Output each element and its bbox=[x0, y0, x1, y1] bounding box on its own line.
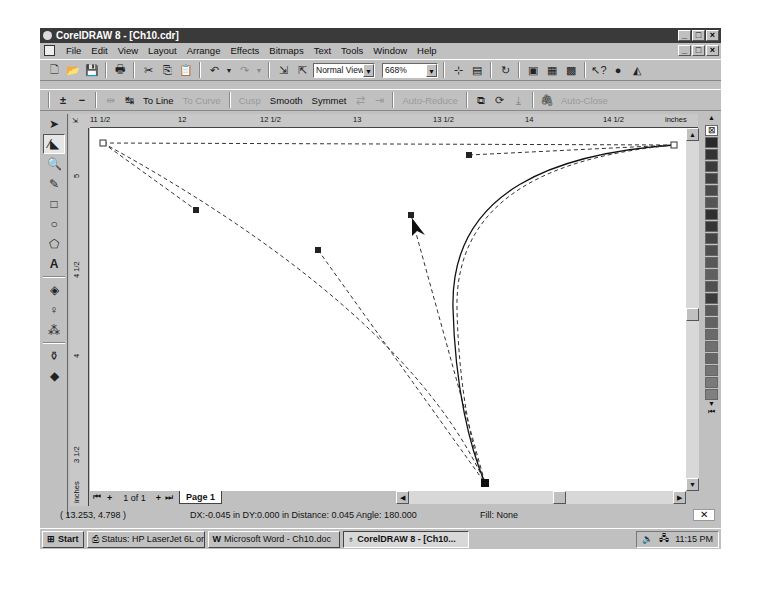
close-button[interactable]: × bbox=[706, 30, 719, 41]
color-swatch[interactable] bbox=[705, 305, 718, 316]
color-swatch[interactable] bbox=[705, 341, 718, 352]
menu-window[interactable]: Window bbox=[368, 43, 412, 58]
add-node-icon[interactable]: ± bbox=[55, 92, 71, 108]
freehand-tool-icon[interactable]: ✎ bbox=[43, 174, 65, 194]
color-swatch[interactable] bbox=[705, 377, 718, 388]
page-tab-page-1[interactable]: Page 1 bbox=[179, 491, 222, 504]
snap-to-grid-icon[interactable]: ⊹ bbox=[450, 62, 466, 78]
menu-view[interactable]: View bbox=[113, 43, 143, 58]
scroll-up-button[interactable]: ▲ bbox=[686, 128, 699, 141]
color-swatch[interactable] bbox=[705, 209, 718, 220]
rotate-nodes-icon[interactable]: ⟳ bbox=[492, 92, 508, 108]
start-node[interactable] bbox=[100, 140, 106, 146]
color-swatch[interactable] bbox=[705, 197, 718, 208]
doc-restore-button[interactable]: □ bbox=[692, 45, 705, 56]
control-handle[interactable] bbox=[315, 247, 321, 253]
interactive-blend-tool-icon[interactable]: ⁂ bbox=[43, 320, 65, 340]
minimize-button[interactable]: _ bbox=[678, 30, 691, 41]
menu-effects[interactable]: Effects bbox=[225, 43, 264, 58]
control-handle[interactable] bbox=[193, 207, 199, 213]
undo-dropdown-icon[interactable]: ▼ bbox=[225, 62, 233, 78]
zoom-level-select[interactable]: 668% ▼ bbox=[382, 63, 438, 78]
symmetrical-button[interactable]: Symmet bbox=[309, 95, 350, 106]
new-icon[interactable]: 🗋 bbox=[46, 62, 62, 78]
color-swatch[interactable] bbox=[705, 269, 718, 280]
color-swatch[interactable] bbox=[705, 293, 718, 304]
zoom-tool-icon[interactable]: 🔍 bbox=[43, 154, 65, 174]
redo-icon[interactable]: ↷ bbox=[236, 62, 252, 78]
doc-close-button[interactable]: × bbox=[706, 45, 719, 56]
undo-icon[interactable]: ↶ bbox=[206, 62, 222, 78]
control-handle[interactable] bbox=[466, 152, 472, 158]
auto-reduce-button[interactable]: Auto-Reduce bbox=[399, 95, 460, 106]
volume-icon[interactable]: 🔈 bbox=[642, 534, 653, 544]
pick-tool-icon[interactable]: ➤ bbox=[43, 114, 65, 134]
last-page-icon[interactable]: ⏭ bbox=[163, 492, 175, 503]
corel-tutor-icon[interactable]: ▦ bbox=[544, 62, 560, 78]
scrapbook-icon[interactable]: ▩ bbox=[563, 62, 579, 78]
elastic-mode-icon[interactable]: 🖇 bbox=[539, 92, 555, 108]
taskbar-coreldraw[interactable]: ♁ CorelDRAW 8 - [Ch10... bbox=[343, 531, 469, 548]
menu-edit[interactable]: Edit bbox=[86, 43, 112, 58]
taskbar-microsoft-word[interactable]: W Microsoft Word - Ch10.doc bbox=[208, 531, 340, 548]
reverse-curve-icon[interactable]: ⇄ bbox=[352, 92, 368, 108]
color-swatch[interactable] bbox=[705, 317, 718, 328]
cusp-button[interactable]: Cusp bbox=[236, 95, 264, 106]
snap-to-objects-icon[interactable]: ▤ bbox=[469, 62, 485, 78]
delete-node-icon[interactable]: − bbox=[74, 92, 90, 108]
shape-tool-icon[interactable]: ⁄◣ bbox=[43, 134, 65, 154]
menu-layout[interactable]: Layout bbox=[143, 43, 182, 58]
restore-button[interactable]: □ bbox=[692, 30, 705, 41]
auto-close-button[interactable]: Auto-Close bbox=[558, 95, 611, 106]
color-swatch[interactable] bbox=[705, 137, 718, 148]
scroll-right-button[interactable]: ▶ bbox=[673, 491, 686, 504]
eyedropper-tool-icon[interactable]: ⚱ bbox=[43, 346, 65, 366]
palette-end-icon[interactable]: ⏮ bbox=[702, 407, 721, 417]
print-icon[interactable]: 🖶 bbox=[112, 62, 128, 78]
node[interactable] bbox=[671, 142, 677, 148]
menu-help[interactable]: Help bbox=[412, 43, 442, 58]
view-mode-select[interactable]: Normal View ▼ bbox=[313, 63, 375, 78]
horizontal-scrollbar[interactable]: ◀ ▶ bbox=[396, 491, 686, 504]
color-swatch[interactable] bbox=[705, 185, 718, 196]
tips-icon[interactable]: ◭ bbox=[629, 62, 645, 78]
no-fill-swatch[interactable]: ⊠ bbox=[705, 125, 718, 136]
doc-minimize-button[interactable]: _ bbox=[678, 45, 691, 56]
scroll-down-button[interactable]: ▼ bbox=[686, 478, 699, 491]
ellipse-tool-icon[interactable]: ○ bbox=[43, 214, 65, 234]
vertical-scrollbar[interactable]: ▲ ▼ bbox=[686, 128, 699, 491]
open-icon[interactable]: 📂 bbox=[65, 62, 81, 78]
save-icon[interactable]: 💾 bbox=[84, 62, 100, 78]
color-swatch[interactable] bbox=[705, 221, 718, 232]
palette-scroll-down-icon[interactable]: ▼ bbox=[702, 400, 721, 407]
menu-arrange[interactable]: Arrange bbox=[182, 43, 226, 58]
refresh-icon[interactable]: ↻ bbox=[497, 62, 513, 78]
paste-icon[interactable]: 📋 bbox=[178, 62, 194, 78]
color-swatch[interactable] bbox=[705, 353, 718, 364]
export-icon[interactable]: ⇱ bbox=[294, 62, 310, 78]
whats-this-icon[interactable]: ↖? bbox=[591, 62, 607, 78]
menu-tools[interactable]: Tools bbox=[336, 43, 368, 58]
vertical-ruler[interactable]: 5 4 1/2 4 3 1/2 inches bbox=[70, 128, 89, 506]
horizontal-ruler[interactable]: 11 1/2 12 12 1/2 13 13 1/2 14 14 1/2 inc… bbox=[90, 114, 698, 128]
join-nodes-icon[interactable]: ⇹ bbox=[102, 92, 118, 108]
coreldraw-app-icon[interactable] bbox=[43, 31, 52, 40]
add-page-before-icon[interactable]: + bbox=[104, 493, 115, 503]
copy-icon[interactable]: ⎘ bbox=[159, 62, 175, 78]
interactive-transparency-tool-icon[interactable]: ♀ bbox=[43, 300, 65, 320]
rectangle-tool-icon[interactable]: □ bbox=[43, 194, 65, 214]
extend-curve-icon[interactable]: ⇥ bbox=[371, 92, 387, 108]
color-swatch[interactable] bbox=[705, 281, 718, 292]
color-swatch[interactable] bbox=[705, 245, 718, 256]
smooth-button[interactable]: Smooth bbox=[267, 95, 306, 106]
end-node[interactable] bbox=[481, 479, 489, 487]
to-curve-button[interactable]: To Curve bbox=[180, 95, 224, 106]
interactive-fill-tool-icon[interactable]: ◈ bbox=[43, 280, 65, 300]
color-swatch[interactable] bbox=[705, 233, 718, 244]
break-curve-icon[interactable]: ↹ bbox=[121, 92, 137, 108]
color-swatch[interactable] bbox=[705, 329, 718, 340]
align-nodes-icon[interactable]: ⤓ bbox=[511, 92, 527, 108]
bezier-curve-drawing[interactable] bbox=[90, 128, 686, 491]
document-icon[interactable] bbox=[44, 45, 55, 56]
color-swatch[interactable] bbox=[705, 389, 718, 400]
